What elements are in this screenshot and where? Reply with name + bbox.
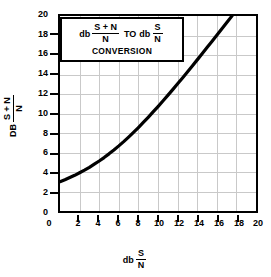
y-tick-label: 0 [24, 208, 48, 217]
x-tick-label: 0 [39, 219, 59, 228]
x-axis-title: db S N [0, 249, 271, 270]
chart-title-line-2: CONVERSION [68, 46, 176, 56]
x-tick-label: 10 [149, 219, 169, 228]
y-axis-denominator: N [14, 103, 24, 114]
y-tick-label: 6 [24, 148, 48, 157]
title-denominator-left: N [100, 34, 111, 44]
y-tick-label: 20 [24, 10, 48, 19]
chart-title-box: db S + N N TO db S N CONVERSION [60, 17, 184, 62]
y-tick-label: 2 [24, 188, 48, 197]
y-tick-label: 8 [24, 129, 48, 138]
title-numerator-right: S [153, 23, 163, 34]
x-axis-fraction: S N [136, 249, 147, 270]
chart-figure: 20 18 16 14 12 10 8 6 4 2 0 0 2 [0, 0, 271, 277]
title-unit-left: db [79, 29, 90, 39]
y-tick-label: 10 [24, 109, 48, 118]
x-tick-label: 4 [88, 219, 108, 228]
title-unit-right: db [139, 29, 150, 39]
y-axis-numerator: S + N [3, 95, 14, 122]
x-axis-numerator: S [136, 249, 146, 260]
x-axis-denominator: N [136, 260, 147, 270]
y-axis-unit: DB [8, 124, 18, 137]
y-tick-label: 12 [24, 89, 48, 98]
title-fraction-left: S + N N [92, 23, 119, 44]
x-tick-label: 6 [108, 219, 128, 228]
y-axis-tick-labels: 20 18 16 14 12 10 8 6 4 2 0 [22, 0, 48, 277]
x-tick-label: 18 [229, 219, 249, 228]
x-tick-label: 14 [189, 219, 209, 228]
y-axis-fraction: S + N N [3, 95, 24, 122]
title-denominator-right: N [152, 34, 163, 44]
x-tick-label: 12 [169, 219, 189, 228]
x-tick-label: 20 [248, 219, 268, 228]
y-tick-label: 14 [24, 69, 48, 78]
y-axis-title: DB S + N N [2, 75, 24, 155]
x-tick-label: 2 [68, 219, 88, 228]
y-tick-label: 4 [24, 168, 48, 177]
y-tick-label: 16 [24, 49, 48, 58]
x-tick-label: 16 [209, 219, 229, 228]
chart-title-line-1: db S + N N TO db S N [68, 23, 176, 44]
x-axis-tick-labels: 0 2 4 6 8 10 12 14 16 18 20 [0, 219, 271, 233]
x-tick-label: 8 [128, 219, 148, 228]
x-axis-unit: db [123, 255, 134, 265]
title-numerator-left: S + N [92, 23, 119, 34]
title-fraction-right: S N [152, 23, 163, 44]
title-connector: TO [124, 29, 136, 39]
y-tick-label: 18 [24, 30, 48, 39]
